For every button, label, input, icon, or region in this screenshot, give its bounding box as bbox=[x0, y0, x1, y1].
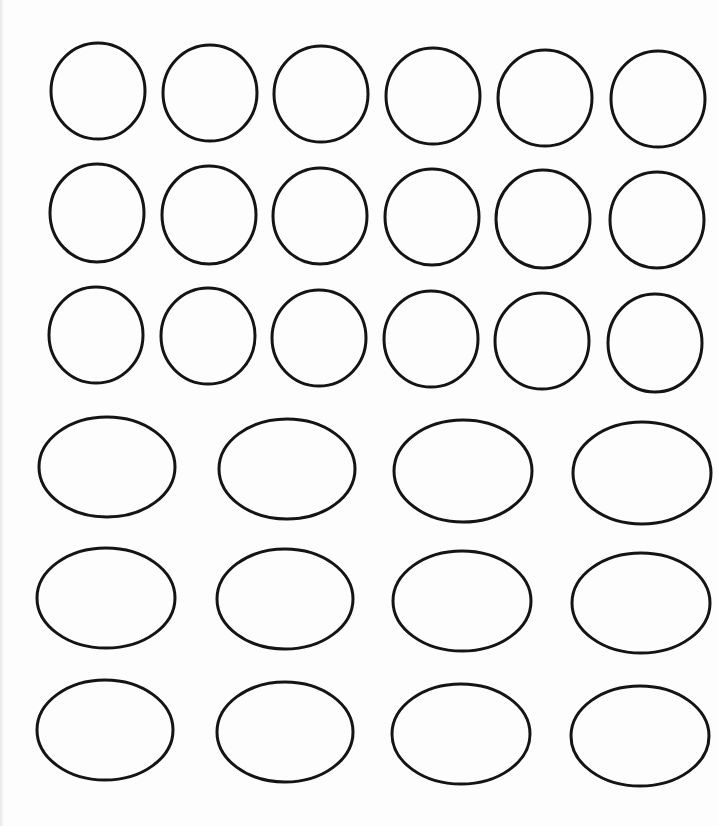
circle-outline-r2-c4 bbox=[385, 169, 479, 265]
oval-outline-r4-c2 bbox=[219, 419, 355, 519]
circle-outline-r3-c4 bbox=[384, 291, 478, 387]
circle-outline-r3-c1 bbox=[49, 287, 143, 383]
circle-outline-r2-c1 bbox=[50, 164, 144, 262]
circle-outline-r1-c2 bbox=[163, 45, 257, 141]
oval-outline-r4-c3 bbox=[394, 420, 532, 522]
ovals-grid bbox=[37, 417, 711, 786]
shape-canvas bbox=[0, 0, 718, 826]
oval-outline-r5-c2 bbox=[217, 549, 353, 649]
oval-outline-r6-c3 bbox=[392, 684, 530, 784]
oval-outline-r5-c1 bbox=[37, 548, 175, 648]
circle-outline-r3-c3 bbox=[272, 290, 366, 386]
circle-outline-r1-c1 bbox=[51, 43, 145, 139]
circle-outline-r2-c3 bbox=[273, 168, 367, 264]
oval-outline-r6-c4 bbox=[571, 686, 709, 786]
circle-outline-r3-c5 bbox=[495, 293, 589, 389]
circle-outline-r1-c6 bbox=[611, 51, 705, 147]
circle-outline-r2-c6 bbox=[610, 172, 704, 268]
oval-outline-r6-c2 bbox=[217, 682, 353, 782]
circle-outline-r3-c6 bbox=[608, 294, 702, 392]
oval-outline-r6-c1 bbox=[37, 680, 173, 780]
oval-outline-r5-c4 bbox=[572, 553, 710, 653]
circle-outline-r2-c2 bbox=[162, 166, 256, 264]
circle-outline-r1-c4 bbox=[386, 48, 480, 144]
circle-outline-r1-c3 bbox=[274, 46, 368, 142]
oval-outline-r4-c1 bbox=[39, 417, 175, 517]
worksheet-page bbox=[0, 0, 718, 826]
circle-outline-r3-c2 bbox=[161, 288, 255, 384]
circles-grid bbox=[49, 43, 705, 392]
circle-outline-r2-c5 bbox=[496, 170, 590, 268]
circle-outline-r1-c5 bbox=[498, 50, 592, 146]
oval-outline-r5-c3 bbox=[393, 551, 531, 651]
oval-outline-r4-c4 bbox=[573, 422, 711, 524]
